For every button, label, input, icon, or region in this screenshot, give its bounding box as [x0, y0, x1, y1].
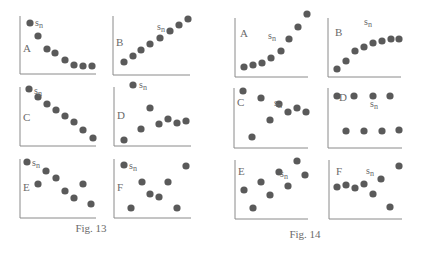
figure-2: AsnBsnCsnDsnEsnFsnFig. 14 [234, 10, 403, 240]
data-point [267, 54, 274, 61]
data-point [137, 46, 144, 53]
data-point [301, 171, 308, 178]
data-point [377, 175, 384, 182]
data-point [284, 182, 291, 189]
data-point [378, 37, 385, 44]
data-point [87, 200, 94, 207]
data-point [184, 15, 191, 22]
sn-annotation: sn [129, 160, 137, 173]
figure-caption: Fig. 13 [75, 222, 107, 234]
data-point [302, 108, 309, 115]
panel-label: A [23, 42, 31, 54]
data-point [369, 39, 376, 46]
data-point [249, 204, 256, 211]
data-point [146, 190, 153, 197]
data-point [52, 174, 59, 181]
data-point [351, 47, 358, 54]
panel-d: Dsn [328, 88, 403, 148]
panel-c: Csn [234, 87, 310, 148]
data-point [369, 190, 376, 197]
data-point [70, 61, 77, 68]
panel-label: B [335, 26, 342, 38]
data-point [360, 127, 367, 134]
sn-annotation: sn [280, 168, 288, 181]
data-point [164, 115, 171, 122]
sn-annotation: sn [364, 16, 372, 29]
data-point [303, 10, 310, 17]
data-point [43, 100, 50, 107]
panel-a: Asn [20, 16, 96, 74]
data-point [120, 136, 127, 143]
data-point [293, 104, 300, 111]
data-point [182, 162, 189, 169]
panel-label: D [117, 109, 125, 121]
data-point [70, 118, 77, 125]
data-point [240, 186, 247, 193]
panel-label: B [116, 36, 123, 48]
data-point [79, 62, 86, 69]
data-point [26, 19, 33, 26]
data-point [239, 87, 246, 94]
data-point [137, 125, 144, 132]
data-point [146, 40, 153, 47]
data-point [155, 193, 162, 200]
data-point [173, 119, 180, 126]
data-point [294, 23, 301, 30]
data-point [386, 203, 393, 210]
panel-c: Csn [20, 85, 97, 146]
sn-annotation: sn [366, 165, 374, 178]
data-point [182, 117, 189, 124]
data-point [88, 62, 95, 69]
data-point [342, 57, 349, 64]
panel-d: Dsn [114, 79, 191, 146]
data-point [378, 127, 385, 134]
panel-label: E [23, 181, 30, 193]
sn-annotation: sn [274, 97, 282, 110]
panel-b: Bsn [113, 15, 192, 75]
data-point [129, 52, 136, 59]
data-point [79, 180, 86, 187]
data-point [277, 47, 284, 54]
data-point [175, 21, 182, 28]
data-point [127, 204, 134, 211]
sn-annotation: sn [268, 30, 276, 43]
data-point [61, 112, 68, 119]
data-point [395, 35, 402, 42]
data-point [156, 34, 163, 41]
panel-label: E [238, 165, 245, 177]
data-point [342, 127, 349, 134]
data-point [386, 92, 393, 99]
data-point [52, 106, 59, 113]
data-point [258, 59, 265, 66]
figure-canvas: AsnBsnCsnDsnEsnFsnFig. 13AsnBsnCsnDsnEsn… [0, 0, 421, 253]
data-point [34, 180, 41, 187]
panel-label: C [23, 111, 30, 123]
data-point [266, 116, 273, 123]
panel-f: Fsn [114, 159, 191, 218]
data-point [166, 27, 173, 34]
data-point [333, 65, 340, 72]
panel-e: Esn [20, 157, 96, 218]
sn-annotation: sn [139, 79, 147, 92]
data-point [25, 85, 32, 92]
data-point [266, 191, 273, 198]
data-point [395, 162, 402, 169]
data-point [240, 63, 247, 70]
data-point [155, 120, 162, 127]
panel-b: Bsn [328, 16, 403, 77]
data-point [70, 194, 77, 201]
data-point [248, 133, 255, 140]
data-point [43, 45, 50, 52]
figure-1: AsnBsnCsnDsnEsnFsnFig. 13 [20, 15, 192, 234]
panel-a: Asn [235, 10, 311, 77]
data-point [120, 58, 127, 65]
data-point [61, 56, 68, 63]
data-point [61, 187, 68, 194]
figure-caption: Fig. 14 [289, 228, 321, 240]
data-point [249, 61, 256, 68]
data-point [164, 178, 171, 185]
panel-e: Esn [235, 157, 309, 219]
data-point [120, 161, 127, 168]
data-point [129, 81, 136, 88]
data-point [173, 204, 180, 211]
